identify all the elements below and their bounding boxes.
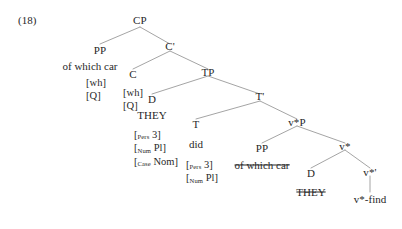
feature-num-t: [Num Pl] [186,171,218,184]
node-d-specifier: D [148,94,156,105]
features-c: [wh] [Q] [123,86,143,113]
feature-num-t-subscript: Num [190,177,204,184]
terminal-of-which-car-top: of which car [63,61,118,72]
node-v-star-bar: v*' [363,167,377,178]
node-cp: CP [133,15,147,26]
features-t: [Pers 3] [Num Pl] [186,158,218,185]
terminal-they-trace: THEY [296,187,325,198]
feature-pers-d-value: 3 [152,129,157,140]
feature-num-t-value: Pl [206,172,215,183]
node-v-star-p: v*P [288,117,306,128]
node-c-bar: C' [165,41,175,52]
feature-num-d-subscript: Num [138,147,152,154]
feature-pers-t: [Pers 3] [186,158,218,171]
node-tp: TP [201,67,214,78]
node-pp-object: PP [256,143,269,154]
feature-case-d: [Case Nom] [134,155,178,168]
feature-pers-t-value: 3 [204,159,209,170]
terminal-did: did [189,139,203,150]
feature-wh-pp: [wh] [86,76,106,89]
feature-num-d-value: Pl [154,142,163,153]
feature-case-d-value: Nom [153,156,174,167]
feature-num-d: [Num Pl] [134,141,178,154]
node-pp-specifier: PP [94,45,107,56]
feature-pers-t-subscript: Pers [190,163,202,170]
node-c: C [129,69,137,80]
feature-wh-c: [wh] [123,86,143,99]
node-t: T [193,119,200,130]
tree-branch-lines [0,0,402,229]
features-pp-specifier: [wh] [Q] [86,76,106,103]
feature-q-c: [Q] [123,99,143,112]
feature-case-d-subscript: Case [138,160,151,167]
terminal-v-star-find: v*-find [354,194,386,205]
feature-pers-d-subscript: Pers [138,133,150,140]
features-d-subject: [Pers 3] [Num Pl] [Case Nom] [134,128,178,168]
node-d-object: D [307,168,315,179]
figure-canvas: (18) CP PP C' C TP D T' T v*P PP v* D v*… [0,0,402,229]
terminal-of-which-car-trace: of which car [235,160,290,171]
node-t-bar: T' [255,91,264,102]
node-v-star: v* [339,141,350,152]
example-number: (18) [18,14,36,26]
feature-q-pp: [Q] [86,89,106,102]
feature-pers-d: [Pers 3] [134,128,178,141]
